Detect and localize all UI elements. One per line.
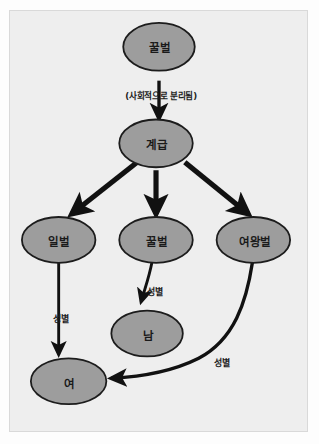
node-drone-bee[interactable] bbox=[119, 217, 193, 263]
node-male[interactable] bbox=[111, 311, 183, 357]
edge-caste-to-worker bbox=[72, 162, 138, 214]
node-worker-bee[interactable] bbox=[22, 217, 96, 263]
node-female[interactable] bbox=[31, 358, 106, 404]
node-queen-bee[interactable] bbox=[217, 217, 291, 263]
node-honeybee-root[interactable] bbox=[123, 23, 195, 71]
node-caste[interactable] bbox=[119, 119, 193, 167]
edge-caste-to-queen bbox=[185, 162, 249, 214]
figure-root: 꿀벌 계급 일벌 꿀벌 여왕벌 남 여 (사회적으로 분리됨) 성별 성별 성별 bbox=[0, 0, 319, 444]
bee-caste-diagram bbox=[10, 11, 307, 431]
diagram-frame: 꿀벌 계급 일벌 꿀벌 여왕벌 남 여 (사회적으로 분리됨) 성별 성별 성별 bbox=[9, 10, 308, 432]
edge-drone-to-male bbox=[141, 262, 152, 302]
